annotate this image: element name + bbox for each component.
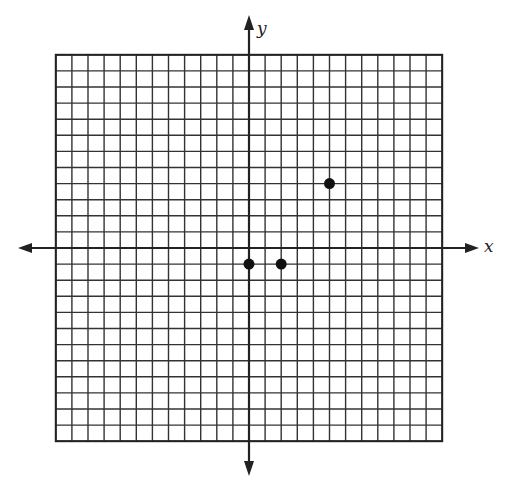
data-point: [276, 259, 287, 270]
x-axis-label: x: [484, 236, 494, 256]
coordinate-plane: [0, 0, 508, 494]
data-point: [324, 178, 335, 189]
data-point: [244, 259, 255, 270]
y-axis-label: y: [257, 18, 267, 38]
